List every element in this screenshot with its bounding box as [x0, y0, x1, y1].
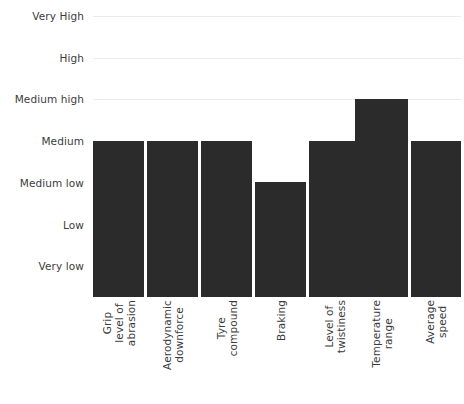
y-tick-label-medium: Medium	[41, 136, 84, 147]
x-tick-grip-level-of-abrasion: Grip level of abrasion	[93, 300, 144, 404]
bar-level-of-twistiness[interactable]	[309, 141, 360, 297]
bar-aerodynamic-downforce[interactable]	[147, 141, 198, 297]
y-tick-label-low: Low	[63, 220, 84, 231]
x-tick-label-average-speed: Average speed	[424, 300, 448, 344]
y-tick-label-medium-high: Medium high	[15, 94, 84, 105]
x-tick-tyre-compound: Tyre compound	[201, 300, 252, 404]
x-tick-label-braking: Braking	[275, 300, 287, 341]
bar-average-speed[interactable]	[411, 141, 461, 297]
x-tick-level-of-twistiness: Level of twistiness	[309, 300, 360, 404]
bar-grip-level-of-abrasion[interactable]	[93, 141, 144, 297]
x-tick-label-grip-level-of-abrasion: Grip level of abrasion	[101, 300, 137, 346]
x-tick-label-level-of-twistiness: Level of twistiness	[323, 300, 347, 353]
x-tick-braking: Braking	[255, 300, 306, 404]
bar-chart: Very High High Medium high Medium Medium…	[0, 0, 464, 404]
x-tick-label-aerodynamic-downforce: Aerodynamic downforce	[161, 300, 185, 370]
bar-tyre-compound[interactable]	[201, 141, 252, 297]
bar-braking[interactable]	[255, 182, 306, 297]
y-tick-label-medium-low: Medium low	[20, 178, 84, 189]
x-tick-aerodynamic-downforce: Aerodynamic downforce	[147, 300, 198, 404]
y-tick-label-very-high: Very High	[32, 11, 84, 22]
plot-area	[93, 16, 461, 297]
y-tick-label-high: High	[59, 53, 84, 64]
x-tick-label-temperature-range: Temperature range	[370, 300, 394, 368]
x-tick-average-speed: Average speed	[411, 300, 461, 404]
y-tick-label-very-low: Very low	[39, 261, 84, 272]
y-axis: Very High High Medium high Medium Medium…	[0, 0, 93, 404]
x-axis: Grip level of abrasion Aerodynamic downf…	[93, 300, 461, 404]
x-tick-temperature-range: Temperature range	[355, 300, 408, 404]
x-tick-label-tyre-compound: Tyre compound	[215, 300, 239, 356]
bar-series	[93, 16, 461, 297]
bar-temperature-range[interactable]	[355, 99, 408, 297]
